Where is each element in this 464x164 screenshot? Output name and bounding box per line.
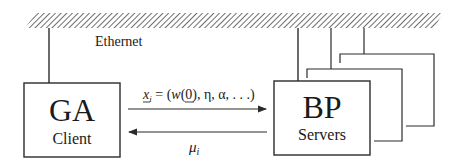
- request-rest: (0), η, α, . . .): [181, 87, 255, 103]
- bp-servers-box: BP Servers: [274, 81, 370, 155]
- request-eq: = (: [152, 87, 172, 103]
- client-title: GA: [49, 92, 95, 128]
- ga-client-box: GA Client: [24, 83, 120, 157]
- ethernet-label: Ethernet: [95, 34, 143, 49]
- response-label: μi: [188, 139, 200, 157]
- hatch-band: [25, 13, 443, 28]
- svg-text:xi = (w(0), η, α, . . .): xi = (w(0), η, α, . . .): [142, 87, 255, 104]
- server-subtitle: Servers: [298, 126, 346, 143]
- client-server-diagram: Ethernet GA Client BP Servers xi = (w(0)…: [0, 0, 464, 164]
- request-label: xi = (w(0), η, α, . . .): [142, 87, 255, 104]
- response-sub: i: [197, 146, 200, 157]
- ethernet-bus: [25, 13, 443, 28]
- client-subtitle: Client: [52, 130, 92, 147]
- server-title: BP: [302, 89, 341, 125]
